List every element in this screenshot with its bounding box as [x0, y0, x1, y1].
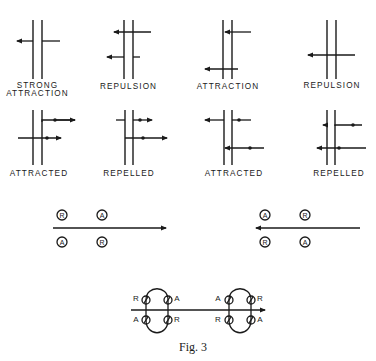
loop-label: R [257, 294, 263, 303]
charge-dot-icon [248, 146, 252, 150]
figure-caption: Fig. 3 [179, 340, 207, 354]
charge-dot-icon [237, 118, 241, 122]
panel-repelled-1: REPELLED [103, 110, 167, 178]
panel-strong-attraction: STRONG ATTRACTION [6, 20, 69, 98]
loop-label: R [133, 294, 139, 303]
charge-dot-icon [53, 118, 57, 122]
label-repulsion: REPULSION [303, 81, 360, 90]
marker-label: R [302, 212, 307, 219]
charge-dot-icon [138, 118, 142, 122]
label-attraction: ATTRACTION [197, 82, 260, 91]
marker-label: A [303, 239, 308, 246]
right-loop: A R R A [215, 289, 263, 333]
label-attracted: ATTRACTED [205, 169, 263, 178]
label-repelled: REPELLED [313, 169, 365, 178]
marker-label: A [60, 239, 65, 246]
charge-dot-icon [337, 146, 341, 150]
charge-dot-icon [45, 136, 49, 140]
loop-label: A [215, 294, 221, 303]
figure-canvas: STRONG ATTRACTION REPULSION ATTRACTION R… [0, 0, 376, 361]
marker-label: R [99, 239, 104, 246]
panel-attraction: ATTRACTION [197, 20, 260, 91]
panel-repulsion-1: REPULSION [100, 20, 157, 91]
marker-label: A [100, 212, 105, 219]
label-repulsion: REPULSION [100, 82, 157, 91]
loop-label: R [215, 315, 221, 324]
charge-dot-icon [141, 136, 145, 140]
direction-diagram-left: A R R A [256, 210, 360, 247]
charge-dot-icon [351, 123, 355, 127]
field-line [335, 125, 362, 126]
loop-label: A [133, 315, 139, 324]
panel-attracted-1: ATTRACTED [10, 110, 75, 178]
marker-label: R [262, 239, 267, 246]
direction-diagram-right: R A A R [53, 210, 166, 247]
loop-label: A [174, 294, 180, 303]
loop-diagram: R A A R A R R A [131, 289, 265, 333]
left-loop: R A A R [133, 289, 180, 333]
loop-label: A [257, 315, 263, 324]
label-repelled: REPELLED [103, 169, 155, 178]
marker-label: R [59, 212, 64, 219]
panel-repulsion-2: REPULSION [303, 20, 360, 90]
label-attracted: ATTRACTED [10, 169, 68, 178]
panel-repelled-2: REPELLED [313, 110, 366, 178]
label-attraction: ATTRACTION [6, 89, 69, 98]
marker-label: A [263, 212, 268, 219]
loop-label: R [174, 315, 180, 324]
panel-attracted-2: ATTRACTED [205, 110, 264, 178]
